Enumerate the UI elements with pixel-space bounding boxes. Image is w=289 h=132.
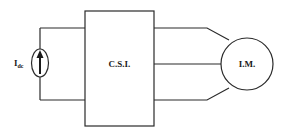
phase-c-wire — [154, 88, 229, 100]
arrow-up-icon — [37, 50, 44, 74]
motor-label: I.M. — [239, 59, 256, 69]
phase-a-wire — [154, 28, 229, 40]
source-label: Idc — [14, 58, 24, 69]
csi-im-diagram: Idc C.S.I. I.M. — [0, 0, 289, 132]
inverter-label: C.S.I. — [109, 59, 131, 69]
